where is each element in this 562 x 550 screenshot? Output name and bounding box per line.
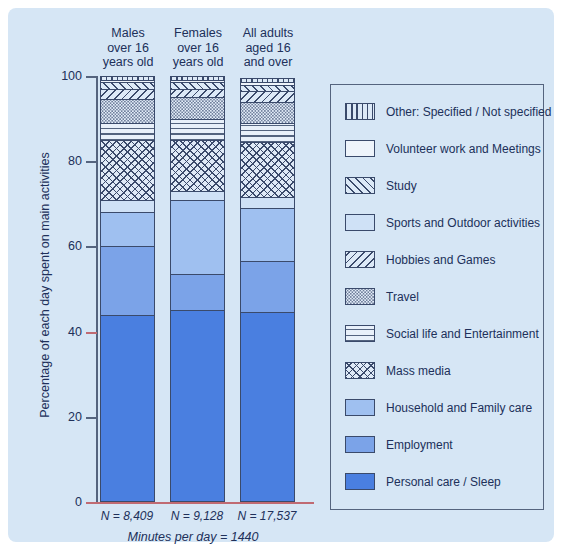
y-tick-80 bbox=[86, 161, 97, 163]
chart-figure: Males over 16 years old Females over 16 … bbox=[8, 8, 554, 542]
legend-item-personal-care-sleep[interactable]: Personal care / Sleep bbox=[345, 473, 501, 490]
bar-segment-employment bbox=[170, 274, 225, 310]
bar-segment-hobbies-and-games bbox=[240, 91, 295, 102]
y-tick-20 bbox=[86, 417, 97, 419]
bar-segment-volunteer-work-and-meetings bbox=[100, 80, 155, 82]
bar-segment-personal-care-sleep bbox=[100, 315, 155, 502]
bar-segment-travel bbox=[240, 102, 295, 123]
bar-segment-mass-media bbox=[100, 140, 155, 200]
y-tick-60 bbox=[86, 246, 97, 248]
legend-label-travel: Travel bbox=[386, 290, 419, 304]
bar-segment-other-specified-not-specified bbox=[170, 76, 225, 80]
legend-label-other-specified-not-specified: Other: Specified / Not specified bbox=[386, 105, 551, 119]
y-tick-100 bbox=[86, 76, 97, 78]
legend-item-sports-and-outdoor-activities[interactable]: Sports and Outdoor activities bbox=[345, 214, 540, 231]
chart-caption: Minutes per day = 1440 bbox=[68, 530, 318, 544]
y-tick-label-40: 40 bbox=[38, 325, 82, 339]
legend-swatch-household-and-family-care bbox=[345, 399, 375, 416]
bar-segment-personal-care-sleep bbox=[240, 312, 295, 502]
bar-segment-household-and-family-care bbox=[170, 200, 225, 275]
legend-label-social-life-and-entertainment: Social life and Entertainment bbox=[386, 327, 539, 341]
bar-segment-volunteer-work-and-meetings bbox=[240, 82, 295, 84]
bar-segment-employment bbox=[240, 261, 295, 312]
legend-item-other-specified-not-specified[interactable]: Other: Specified / Not specified bbox=[345, 103, 551, 120]
n-label-all-adults: N = 17,537 bbox=[222, 509, 312, 523]
legend-label-household-and-family-care: Household and Family care bbox=[386, 401, 532, 415]
legend-item-household-and-family-care[interactable]: Household and Family care bbox=[345, 399, 532, 416]
legend-item-mass-media[interactable]: Mass media bbox=[345, 362, 451, 379]
bar-segment-study bbox=[100, 82, 155, 88]
bar-segment-other-specified-not-specified bbox=[240, 78, 295, 82]
bar-segment-travel bbox=[170, 97, 225, 118]
legend-swatch-social-life-and-entertainment bbox=[345, 325, 375, 342]
legend-swatch-mass-media bbox=[345, 362, 375, 379]
legend-label-mass-media: Mass media bbox=[386, 364, 451, 378]
legend-item-travel[interactable]: Travel bbox=[345, 288, 419, 305]
legend-swatch-travel bbox=[345, 288, 375, 305]
bar-segment-social-life-and-entertainment bbox=[170, 119, 225, 140]
bar-segment-employment bbox=[100, 246, 155, 314]
bar-segment-household-and-family-care bbox=[240, 208, 295, 261]
legend-item-study[interactable]: Study bbox=[345, 177, 417, 194]
bar-segment-social-life-and-entertainment bbox=[240, 123, 295, 142]
bar-segment-other-specified-not-specified bbox=[100, 76, 155, 80]
bar-segment-study bbox=[240, 85, 295, 91]
y-axis-line bbox=[96, 76, 98, 503]
bar-segment-hobbies-and-games bbox=[100, 89, 155, 100]
legend-item-hobbies-and-games[interactable]: Hobbies and Games bbox=[345, 251, 495, 268]
legend-label-personal-care-sleep: Personal care / Sleep bbox=[386, 475, 501, 489]
bar-males bbox=[100, 76, 155, 502]
bar-segment-sports-and-outdoor-activities bbox=[170, 191, 225, 200]
legend-swatch-volunteer-work-and-meetings bbox=[345, 140, 375, 157]
bar-females bbox=[170, 76, 225, 502]
bar-segment-personal-care-sleep bbox=[170, 310, 225, 502]
legend-label-sports-and-outdoor-activities: Sports and Outdoor activities bbox=[386, 216, 540, 230]
bar-segment-sports-and-outdoor-activities bbox=[240, 197, 295, 208]
legend-label-study: Study bbox=[386, 179, 417, 193]
bar-segment-volunteer-work-and-meetings bbox=[170, 80, 225, 82]
bar-segment-travel bbox=[100, 99, 155, 122]
legend-label-employment: Employment bbox=[386, 438, 453, 452]
legend-item-volunteer-work-and-meetings[interactable]: Volunteer work and Meetings bbox=[345, 140, 541, 157]
legend-swatch-sports-and-outdoor-activities bbox=[345, 214, 375, 231]
column-header-all-adults: All adults aged 16 and over bbox=[230, 26, 306, 70]
y-tick-label-100: 100 bbox=[38, 69, 82, 83]
bar-segment-mass-media bbox=[170, 140, 225, 191]
y-tick-label-20: 20 bbox=[38, 410, 82, 424]
bar-all-adults bbox=[240, 76, 295, 502]
legend-item-social-life-and-entertainment[interactable]: Social life and Entertainment bbox=[345, 325, 539, 342]
bar-segment-household-and-family-care bbox=[100, 212, 155, 246]
legend-swatch-other-specified-not-specified bbox=[345, 103, 375, 120]
legend-label-hobbies-and-games: Hobbies and Games bbox=[386, 253, 495, 267]
column-header-females: Females over 16 years old bbox=[160, 26, 236, 70]
x-axis-baseline bbox=[96, 502, 314, 504]
legend-swatch-study bbox=[345, 177, 375, 194]
bar-segment-sports-and-outdoor-activities bbox=[100, 200, 155, 213]
bar-segment-social-life-and-entertainment bbox=[100, 123, 155, 140]
legend-swatch-hobbies-and-games bbox=[345, 251, 375, 268]
y-tick-label-80: 80 bbox=[38, 154, 82, 168]
legend-label-volunteer-work-and-meetings: Volunteer work and Meetings bbox=[386, 142, 541, 156]
bar-segment-hobbies-and-games bbox=[170, 89, 225, 98]
y-axis-title: Percentage of each day spent on main act… bbox=[38, 85, 52, 485]
chart-legend: Other: Specified / Not specifiedVoluntee… bbox=[330, 84, 544, 510]
legend-swatch-employment bbox=[345, 436, 375, 453]
y-tick-label-60: 60 bbox=[38, 239, 82, 253]
bar-segment-study bbox=[170, 82, 225, 88]
y-tick-label-0: 0 bbox=[38, 495, 82, 509]
legend-swatch-personal-care-sleep bbox=[345, 473, 375, 490]
bar-segment-mass-media bbox=[240, 142, 295, 197]
y-tick-40 bbox=[86, 332, 97, 334]
legend-item-employment[interactable]: Employment bbox=[345, 436, 453, 453]
column-header-males: Males over 16 years old bbox=[90, 26, 166, 70]
